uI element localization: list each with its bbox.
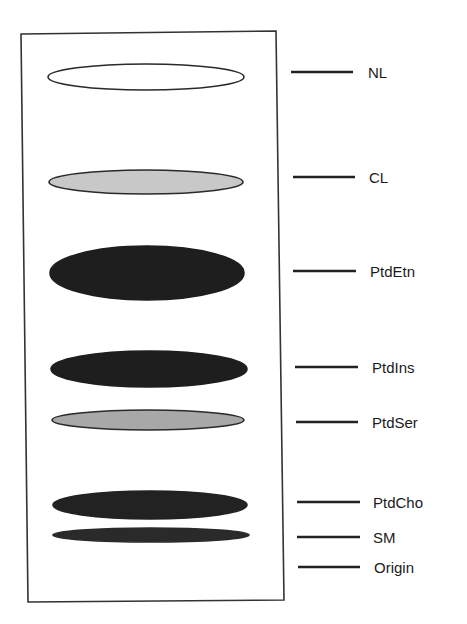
- band-labels: NLCLPtdEtnPtdInsPtdSerPtdChoSMOrigin: [368, 64, 423, 576]
- band-ptdcho-label: PtdCho: [373, 494, 423, 511]
- tlc-diagram: NLCLPtdEtnPtdInsPtdSerPtdChoSMOrigin: [0, 0, 467, 624]
- origin-label: Origin: [374, 559, 414, 576]
- band-nl-spot: [48, 64, 244, 90]
- band-ptdcho-spot: [53, 491, 247, 519]
- band-leader-lines: [291, 72, 360, 567]
- band-sm-spot: [53, 528, 249, 542]
- band-sm-label: SM: [373, 529, 396, 546]
- band-ptdser-label: PtdSer: [372, 414, 418, 431]
- band-ptdser-spot: [52, 410, 244, 430]
- band-cl-spot: [49, 170, 243, 194]
- band-cl-label: CL: [369, 169, 388, 186]
- band-ptdetn-spot: [50, 246, 244, 300]
- band-ptdins-label: PtdIns: [372, 359, 415, 376]
- band-ptdins-spot: [51, 351, 247, 387]
- band-nl-label: NL: [368, 64, 387, 81]
- band-ptdetn-label: PtdEtn: [370, 263, 415, 280]
